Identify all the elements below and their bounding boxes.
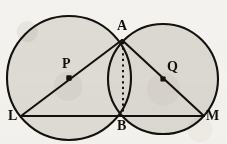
point-label-L: L [8,109,17,123]
geometry-figure: A B L M P Q [0,0,227,144]
point-label-A: A [117,19,127,33]
point-label-P: P [62,57,71,71]
geometry-canvas [0,0,227,144]
center-dot-P [66,75,71,80]
point-label-M: M [206,109,219,123]
center-dot-Q [160,76,165,81]
point-label-Q: Q [167,60,178,74]
point-label-B: B [117,119,126,133]
